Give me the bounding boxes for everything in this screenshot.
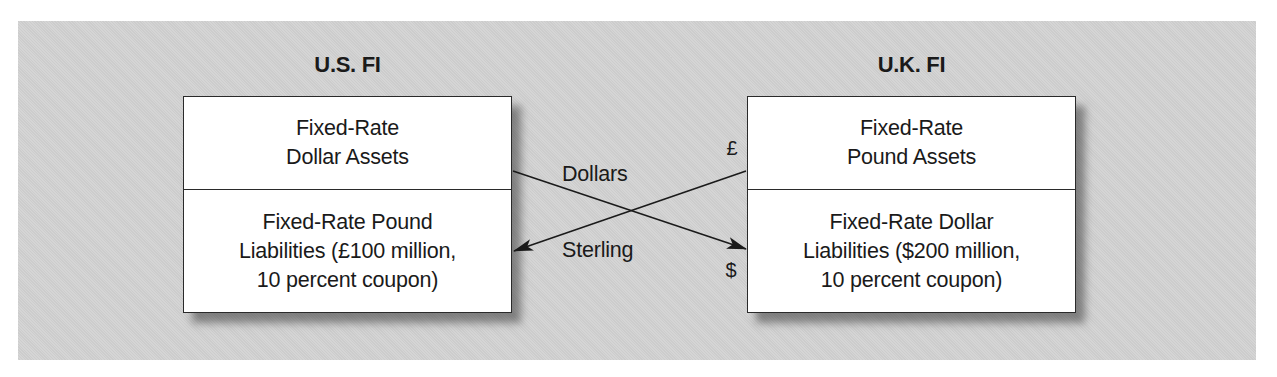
sterling-flow-label: Sterling (562, 238, 633, 262)
cash-flow-arrows (0, 0, 1277, 377)
pound-symbol: £ (722, 137, 742, 159)
dollar-symbol: $ (721, 259, 741, 281)
dollars-flow-label: Dollars (562, 162, 628, 186)
